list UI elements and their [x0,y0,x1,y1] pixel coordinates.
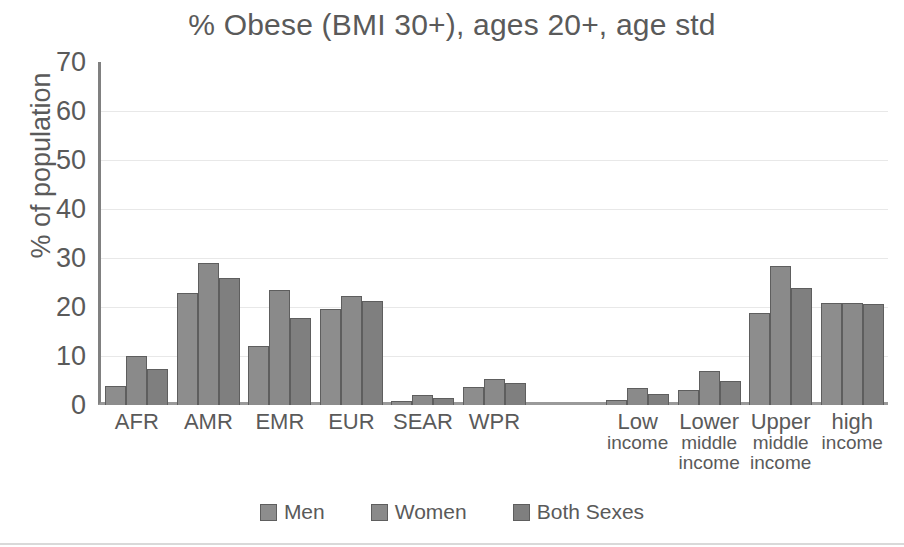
x-tick-label: SEAR [387,410,459,433]
bar[interactable] [391,401,412,405]
bar[interactable] [749,313,770,405]
bars-layer [101,62,888,405]
legend-item[interactable]: Women [371,500,467,524]
x-tick-label-line: income [746,453,816,473]
obesity-bar-chart: % Obese (BMI 30+), ages 20+, age std % o… [0,0,904,547]
x-tick-label: Lowincome [602,410,674,453]
bar-group [673,62,745,405]
x-tick-label-line: AFR [102,410,172,433]
legend-item[interactable]: Both Sexes [513,500,644,524]
y-tick-label: 20 [56,294,86,321]
bar[interactable] [699,371,720,405]
bottom-divider [0,543,904,545]
bar[interactable] [433,398,454,405]
bar[interactable] [269,290,290,405]
bar[interactable] [320,309,341,405]
x-tick-label: EUR [316,410,388,433]
legend-swatch-icon [513,504,530,521]
y-tick-label: 70 [56,49,86,76]
chart-legend: MenWomenBoth Sexes [0,500,904,524]
bar[interactable] [720,381,741,406]
x-tick-label-line: high [817,410,887,433]
bar[interactable] [505,383,526,405]
legend-swatch-icon [260,504,277,521]
x-tick-label: AFR [101,410,173,433]
bar-group [387,62,459,405]
bar[interactable] [105,386,126,405]
legend-label: Women [395,500,467,524]
y-tick-label: 30 [56,245,86,272]
x-tick-label: highincome [816,410,888,453]
x-tick-label-line: SEAR [388,410,458,433]
x-tick-label-line: income [603,433,673,453]
bar[interactable] [412,395,433,405]
y-tick-label: 60 [56,98,86,125]
legend-item[interactable]: Men [260,500,325,524]
bar[interactable] [842,303,863,405]
bar[interactable] [648,394,669,405]
bar-group [173,62,245,405]
bar[interactable] [147,369,168,405]
x-tick-label: AMR [173,410,245,433]
bar[interactable] [219,278,240,405]
bar[interactable] [341,296,362,405]
legend-swatch-icon [371,504,388,521]
x-tick-label-line: AMR [174,410,244,433]
x-tick-label-line: Low [603,410,673,433]
legend-label: Both Sexes [537,500,644,524]
bar-group [244,62,316,405]
bar-group [745,62,817,405]
bar[interactable] [770,266,791,405]
bar[interactable] [362,301,383,405]
bar[interactable] [248,346,269,405]
x-tick-label-line: EUR [317,410,387,433]
x-tick-label-line: EMR [245,410,315,433]
bar[interactable] [177,293,198,405]
x-tick-label-line: WPR [460,410,530,433]
legend-label: Men [284,500,325,524]
y-axis-tick-labels: 706050403020100 [0,62,92,405]
bar[interactable] [821,303,842,405]
x-tick-label-line: middle [674,433,744,453]
bar-group [316,62,388,405]
chart-title: % Obese (BMI 30+), ages 20+, age std [0,8,904,42]
bar[interactable] [463,387,484,405]
y-tick-label: 40 [56,196,86,223]
bar[interactable] [126,356,147,405]
y-tick-label: 0 [71,392,86,419]
x-tick-label: EMR [244,410,316,433]
x-tick-label-line: Lower [674,410,744,433]
bar-group [101,62,173,405]
x-tick-label-line: income [817,433,887,453]
x-tick-label-line: Upper [746,410,816,433]
x-tick-label-line: income [674,453,744,473]
bar-group [602,62,674,405]
bar[interactable] [863,304,884,405]
bar[interactable] [484,379,505,405]
bar[interactable] [678,390,699,405]
bar-group [816,62,888,405]
x-tick-label: Lowermiddleincome [673,410,745,474]
bar[interactable] [606,400,627,405]
bar[interactable] [198,263,219,405]
x-axis-tick-labels: AFRAMREMREURSEARWPRLowincomeLowermiddlei… [101,410,888,474]
x-tick-label-line: middle [746,433,816,453]
bar-group [459,62,531,405]
y-tick-label: 10 [56,343,86,370]
x-tick-label: Uppermiddleincome [745,410,817,474]
bar[interactable] [627,388,648,405]
bar[interactable] [290,318,311,405]
bar-group [530,62,602,405]
bar[interactable] [791,288,812,405]
y-tick-label: 50 [56,147,86,174]
x-tick-label: WPR [459,410,531,433]
